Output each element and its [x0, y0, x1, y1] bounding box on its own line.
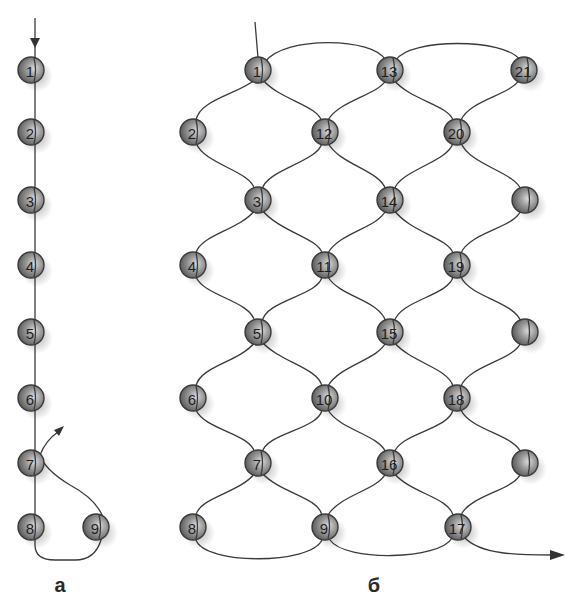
bead-12: 12: [312, 119, 347, 154]
bead-number: 10: [316, 391, 333, 408]
beading-diagram: 123456789 123456789101112131415161718192…: [0, 0, 575, 614]
bead-18: 18: [444, 385, 479, 420]
bead-number: 8: [26, 520, 34, 537]
bead-number: 6: [26, 391, 34, 408]
bead-number: 1: [26, 63, 34, 80]
panel-b-label: б: [368, 574, 380, 596]
bead-21: 21: [511, 57, 546, 92]
bead-4: 4: [180, 252, 215, 287]
bead-7: 7: [245, 450, 280, 485]
bead-6: 6: [180, 385, 215, 420]
panel-a-label: а: [54, 574, 66, 596]
bead-number: 5: [26, 325, 34, 342]
bead-15: 15: [377, 319, 412, 354]
bead-16: 16: [377, 450, 412, 485]
bead-number: 1: [253, 63, 261, 80]
bead-8: 8: [18, 514, 53, 549]
bead-9: 9: [312, 514, 347, 549]
bead-number: 9: [320, 520, 328, 537]
bead-number: 19: [448, 258, 465, 275]
arrow-a-start-icon: [30, 38, 40, 48]
bead-number: 3: [253, 193, 261, 210]
bead-7: 7: [18, 450, 53, 485]
bead-9: 9: [83, 514, 118, 549]
panel-b-threads: [196, 22, 565, 560]
bead-5: 5: [18, 319, 53, 354]
bead-8: 8: [180, 514, 215, 549]
bead-2: 2: [180, 119, 215, 154]
bead-number: 7: [253, 456, 261, 473]
bead-number: 16: [381, 456, 398, 473]
bead-number: 20: [448, 125, 465, 142]
bead-number: 5: [253, 325, 261, 342]
arrow-b-end-icon: [550, 550, 565, 560]
bead-4: 4: [18, 252, 53, 287]
bead-unnumbered: [512, 450, 547, 485]
bead-3: 3: [245, 187, 280, 222]
bead-1: 1: [18, 57, 53, 92]
bead-number: 4: [188, 258, 196, 275]
bead-number: 13: [381, 63, 398, 80]
panel-a-beads: 123456789: [18, 57, 118, 549]
bead-17: 17: [445, 514, 480, 549]
bead-number: 9: [91, 520, 99, 537]
bead-number: 4: [26, 258, 34, 275]
bead-number: 6: [188, 391, 196, 408]
bead-number: 17: [449, 520, 466, 537]
bead-2: 2: [18, 119, 53, 154]
bead-11: 11: [312, 252, 347, 287]
bead-number: 8: [188, 520, 196, 537]
bead-number: 2: [26, 125, 34, 142]
bead-number: 15: [381, 325, 398, 342]
bead-number: 14: [381, 193, 398, 210]
bead-19: 19: [444, 252, 479, 287]
bead-5: 5: [245, 319, 280, 354]
bead-number: 11: [316, 258, 332, 275]
bead-number: 2: [188, 125, 196, 142]
bead-6: 6: [18, 385, 53, 420]
bead-13: 13: [377, 57, 412, 92]
bead-1: 1: [245, 57, 280, 92]
bead-14: 14: [377, 187, 412, 222]
bead-number: 3: [26, 193, 34, 210]
bead-10: 10: [312, 385, 347, 420]
bead-number: 21: [515, 63, 532, 80]
bead-number: 12: [316, 125, 333, 142]
bead-number: 7: [26, 456, 34, 473]
bead-number: 18: [448, 391, 465, 408]
bead-3: 3: [18, 187, 53, 222]
